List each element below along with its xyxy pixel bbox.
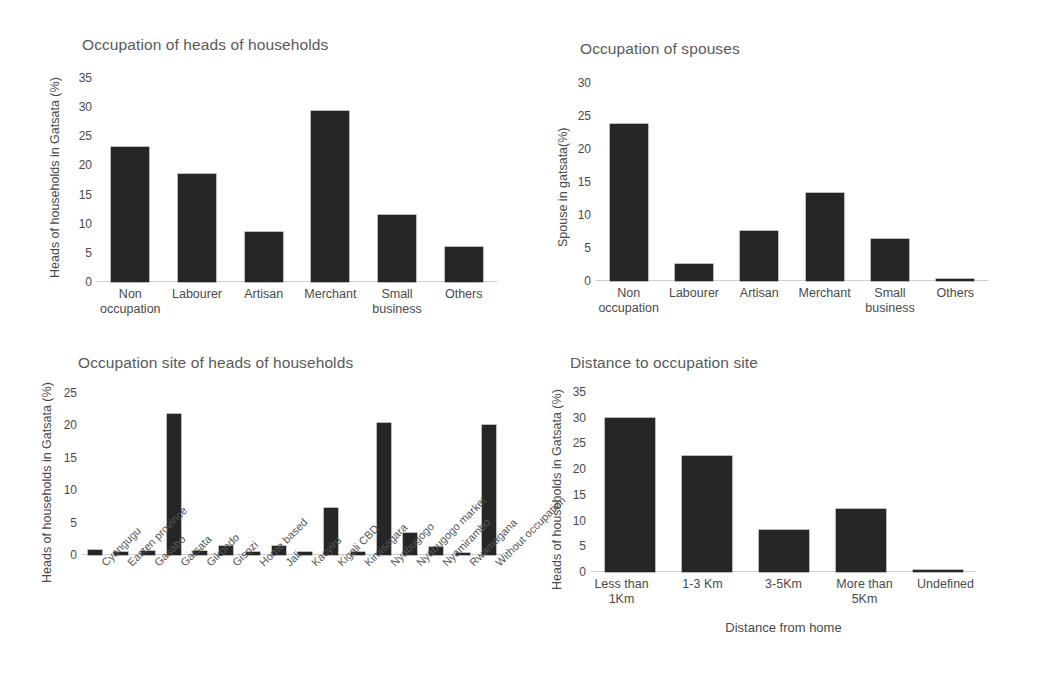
bar (682, 456, 732, 572)
y-tick-label: 10 (64, 484, 77, 496)
bar-slot (668, 392, 745, 572)
y-tick-label: 20 (578, 143, 591, 155)
bar-slot (899, 392, 976, 572)
x-tick-label: Non occupation (97, 287, 164, 317)
y-tick-label: 5 (579, 540, 586, 552)
bar-slot (297, 78, 364, 282)
x-tick-label: Less than 1Km (581, 577, 662, 607)
y-tick-label: 5 (584, 242, 591, 254)
chart-panel-occupation-site: Occupation site of heads of households H… (0, 348, 518, 696)
y-axis-label: Spouse in gatsata(%) (556, 100, 570, 275)
x-tick-label: Merchant (297, 287, 364, 317)
bar (111, 147, 149, 282)
y-tick-label: 30 (79, 101, 92, 113)
x-axis-categories: Non occupationLabourerArtisanMerchantSma… (97, 287, 497, 317)
y-axis-label: Heads of households in Gatsata (%) (48, 70, 62, 285)
y-tick-label: 10 (79, 218, 92, 230)
bar-slot (661, 83, 726, 281)
bar-slot (727, 83, 792, 281)
y-tick-label: 30 (578, 77, 591, 89)
y-axis-label: Heads of households in Gatsata (%) (40, 388, 54, 583)
x-tick-label: Artisan (727, 286, 792, 316)
bar (675, 264, 713, 281)
bar-slot (822, 392, 899, 572)
bar (936, 279, 974, 282)
y-tick-label: 30 (573, 412, 586, 424)
y-tick-label: 15 (64, 452, 77, 464)
x-tick-label: Merchant (792, 286, 857, 316)
y-tick-label: 10 (578, 209, 591, 221)
y-tick-label: 5 (70, 517, 77, 529)
x-tick-label: Labourer (661, 286, 726, 316)
bar-slot (364, 78, 431, 282)
y-tick-label: 0 (85, 276, 92, 288)
bar (178, 174, 216, 282)
chart-title: Distance to occupation site (570, 354, 758, 372)
y-tick-label: 0 (584, 275, 591, 287)
y-tick-label: 20 (79, 159, 92, 171)
y-tick-label: 15 (79, 189, 92, 201)
y-tick-label: 5 (85, 247, 92, 259)
bar-slot (745, 392, 822, 572)
x-tick-label: 3-5Km (743, 577, 824, 607)
x-axis-label: Distance from home (591, 620, 976, 635)
chart-title: Occupation site of heads of households (78, 354, 353, 372)
bar-slot (318, 393, 344, 555)
bar-slot (857, 83, 922, 281)
bar-series (591, 392, 976, 572)
chart-panel-occupation-spouses: Occupation of spouses Spouse in gatsata(… (518, 0, 1037, 348)
bar (806, 193, 844, 281)
x-tick-label: 1-3 Km (662, 577, 743, 607)
x-tick-label: More than 5Km (824, 577, 905, 607)
chart-title: Occupation of spouses (580, 40, 740, 58)
plot-area: 051015202530 (596, 83, 988, 281)
x-tick-label: Others (430, 287, 497, 317)
y-tick-label: 25 (578, 110, 591, 122)
plot-area: 05101520253035 (97, 78, 497, 282)
bar (913, 570, 963, 573)
x-tick-label: Undefined (905, 577, 986, 607)
y-tick-label: 35 (79, 72, 92, 84)
y-tick-label: 25 (573, 437, 586, 449)
x-tick-label: Small business (857, 286, 922, 316)
bar (871, 239, 909, 281)
x-tick-label: Artisan (230, 287, 297, 317)
y-tick-label: 35 (573, 386, 586, 398)
bar (759, 530, 809, 572)
y-tick-label: 20 (573, 463, 586, 475)
y-tick-label: 15 (573, 489, 586, 501)
bar-slot (213, 393, 239, 555)
bar (445, 247, 483, 282)
y-tick-label: 10 (573, 515, 586, 527)
bar (245, 232, 283, 282)
bar-slot (187, 393, 213, 555)
x-tick-label: Small business (364, 287, 431, 317)
x-tick-label: Others (923, 286, 988, 316)
charts-grid: Occupation of heads of households Heads … (0, 0, 1037, 696)
plot-area: 05101520253035 (591, 392, 976, 572)
y-tick-label: 15 (578, 176, 591, 188)
chart-panel-occupation-heads: Occupation of heads of households Heads … (0, 0, 518, 348)
bar-slot (240, 393, 266, 555)
bar-slot (164, 78, 231, 282)
bar-slot (923, 83, 988, 281)
bar (740, 231, 778, 281)
bar (610, 124, 648, 281)
bar-slot (230, 78, 297, 282)
chart-panel-distance: Distance to occupation site Heads of hou… (518, 348, 1037, 696)
bar (88, 550, 102, 555)
y-axis-label: Heads of households in Gatsata (%) (550, 382, 564, 597)
y-tick-label: 25 (79, 130, 92, 142)
bar-slot (792, 83, 857, 281)
y-tick-label: 20 (64, 419, 77, 431)
chart-title: Occupation of heads of households (82, 36, 328, 54)
bar-series (596, 83, 988, 281)
y-tick-label: 0 (70, 549, 77, 561)
bar-slot (596, 83, 661, 281)
bar-series (97, 78, 497, 282)
bar-slot (430, 78, 497, 282)
bar-slot (97, 78, 164, 282)
x-axis-categories: Less than 1Km1-3 Km3-5KmMore than 5KmUnd… (581, 577, 986, 607)
bar (836, 509, 886, 572)
bar (311, 111, 349, 282)
